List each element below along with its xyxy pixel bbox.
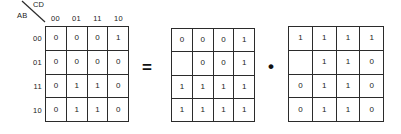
- kmap-cell: 1: [172, 76, 193, 99]
- kmap-cell: 0: [360, 51, 384, 75]
- kmap-cell: 0: [108, 51, 129, 75]
- kmap-cell: 0: [88, 51, 109, 75]
- kmap-cell: 0: [360, 75, 384, 99]
- kmap-cell: 1: [360, 27, 384, 51]
- kmap-cell: 1: [214, 99, 235, 122]
- column-header-0: 00: [45, 13, 66, 25]
- column-variable-label: CD: [33, 1, 44, 9]
- kmap-cell: 1: [193, 76, 214, 99]
- kmap-cell: 0: [193, 52, 214, 75]
- kmap-cell: 1: [234, 99, 255, 122]
- kmap-cell: 1: [67, 98, 88, 122]
- row-variable-label: AB: [17, 12, 27, 20]
- kmap-cell: 0: [214, 52, 235, 75]
- column-header-3: 10: [108, 13, 129, 25]
- kmap-cell: 0: [108, 75, 129, 99]
- kmap-cell: 1: [108, 27, 129, 51]
- kmap-cell: [289, 51, 313, 75]
- kmap-cell: 0: [46, 51, 67, 75]
- kmap-cell: 0: [46, 27, 67, 51]
- result-kmap-grid: 0 0 0 1 0 0 0 0 0 1 1 0 0 1 1 0: [45, 26, 129, 122]
- kmap-cell: 1: [88, 98, 109, 122]
- kmap-cell: 1: [337, 75, 361, 99]
- kmap-cell: 0: [289, 75, 313, 99]
- kmap-cell: 0: [172, 29, 193, 52]
- kmap-cell: 1: [234, 29, 255, 52]
- kmap-cell: 1: [337, 98, 361, 122]
- kmap-cell: 0: [46, 98, 67, 122]
- row-header-2: 11: [22, 74, 43, 98]
- kmap-cell: 0: [88, 27, 109, 51]
- kmap-cell: 1: [289, 27, 313, 51]
- kmap-cell: 1: [234, 52, 255, 75]
- kmap-cell: 0: [67, 51, 88, 75]
- column-header-2: 11: [87, 13, 108, 25]
- kmap-cell: 1: [88, 75, 109, 99]
- column-header-1: 01: [66, 13, 87, 25]
- kmap-equation-figure: CD AB 00 01 11 10 00 01 11 10 0 0 0 1 0 …: [0, 0, 401, 134]
- row-header-column: 00 01 11 10: [22, 26, 43, 122]
- kmap-cell: 0: [360, 98, 384, 122]
- factor-kmap-1-grid: 0 0 0 1 0 0 1 1 1 1 1 1 1 1 1: [171, 28, 255, 122]
- kmap-cell: 0: [46, 75, 67, 99]
- factor-kmap-2-grid: 1 1 1 1 1 1 0 0 1 1 0 0 1 1 0: [288, 26, 384, 122]
- and-dot-operator: •: [268, 58, 274, 75]
- row-header-1: 01: [22, 50, 43, 74]
- kmap-cell: 0: [193, 29, 214, 52]
- kmap-cell: 1: [313, 75, 337, 99]
- kmap-cell: 1: [214, 76, 235, 99]
- kmap-corner-header: CD AB: [16, 0, 48, 26]
- kmap-cell: 1: [172, 99, 193, 122]
- equals-operator: =: [142, 59, 152, 76]
- kmap-cell: 1: [337, 51, 361, 75]
- row-header-3: 10: [22, 98, 43, 122]
- kmap-cell: 1: [193, 99, 214, 122]
- kmap-cell: 1: [313, 51, 337, 75]
- kmap-cell: 1: [234, 76, 255, 99]
- kmap-cell: 1: [313, 98, 337, 122]
- kmap-cell: 0: [108, 98, 129, 122]
- column-header-row: 00 01 11 10: [45, 13, 129, 25]
- kmap-cell: 1: [337, 27, 361, 51]
- kmap-cell: 0: [67, 27, 88, 51]
- row-header-0: 00: [22, 26, 43, 50]
- kmap-cell: 1: [67, 75, 88, 99]
- kmap-cell: 0: [289, 98, 313, 122]
- kmap-cell: 1: [313, 27, 337, 51]
- kmap-cell: 0: [214, 29, 235, 52]
- kmap-cell: [172, 52, 193, 75]
